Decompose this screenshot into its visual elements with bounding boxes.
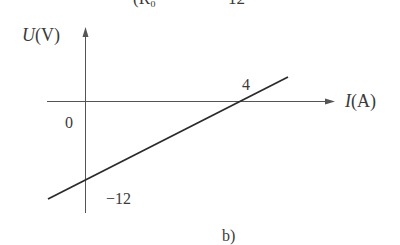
origin-label: 0: [65, 115, 73, 131]
y-axis-symbol: U: [22, 25, 35, 45]
characteristic-line: [48, 77, 288, 199]
x-axis-label: I(A): [345, 92, 376, 110]
x-intercept-label: 4: [242, 77, 250, 93]
x-axis-arrow-icon: [325, 99, 335, 105]
y-axis-unit: (V): [35, 25, 60, 45]
y-intercept-label: −12: [106, 191, 131, 207]
y-axis-label: U(V): [22, 26, 60, 44]
x-axis-unit: (A): [351, 91, 376, 111]
figure-caption: b): [222, 228, 235, 244]
y-axis-arrow-icon: [83, 27, 89, 37]
ui-graph: [0, 0, 400, 245]
